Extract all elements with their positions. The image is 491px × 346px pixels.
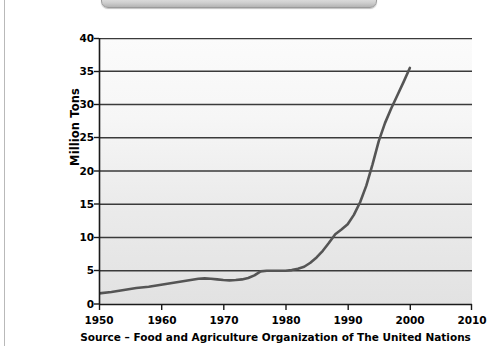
x-axis-tick-labels: 1950 1960 1970 1980 1990 2000 2010 <box>40 16 491 346</box>
line-chart-figure: Million Tons 40 35 30 25 20 15 10 5 0 <box>40 16 491 346</box>
page-left-rule <box>4 0 5 346</box>
x-tick-label-1950: 1950 <box>69 315 129 326</box>
x-tick-label-1990: 1990 <box>318 315 378 326</box>
x-tick-label-1960: 1960 <box>132 315 192 326</box>
x-tick-label-2010: 2010 <box>442 315 491 326</box>
source-caption: Source – Food and Agriculture Organizati… <box>40 331 491 343</box>
x-tick-label-2000: 2000 <box>380 315 440 326</box>
x-tick-label-1980: 1980 <box>256 315 316 326</box>
x-tick-label-1970: 1970 <box>194 315 254 326</box>
clipped-rounded-banner <box>101 0 377 8</box>
